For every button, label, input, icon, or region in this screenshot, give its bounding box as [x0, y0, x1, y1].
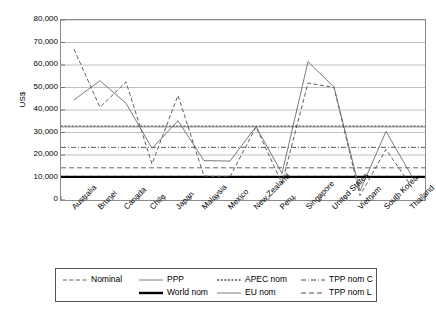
legend-item-label: Nominal — [91, 275, 122, 284]
legend-swatch-line-icon — [138, 288, 164, 298]
legend-item-label: PPP — [167, 275, 184, 284]
legend-item[interactable]: World nom — [138, 286, 208, 299]
y-axis-tick-label: 80,000 — [14, 15, 58, 23]
legend-row: World nomEU nomTPP nom L — [60, 285, 372, 298]
plot-area — [60, 19, 426, 201]
legend-item[interactable]: PPP — [138, 273, 184, 286]
legend-swatch-line-icon — [216, 288, 242, 298]
gridlines — [61, 20, 425, 200]
y-axis-tick-label: 20,000 — [14, 150, 58, 158]
y-axis-tick-label: 50,000 — [14, 83, 58, 91]
chart-legend: NominalPPPAPEC nomTPP nom C World nomEU … — [55, 268, 377, 302]
y-axis-tick-label: 70,000 — [14, 38, 58, 46]
legend-swatch-line-icon — [300, 275, 326, 285]
legend-item[interactable]: APEC nom — [216, 273, 287, 286]
y-axis-tick-label: 60,000 — [14, 60, 58, 68]
legend-row: NominalPPPAPEC nomTPP nom C — [60, 272, 372, 285]
legend-swatch-line-icon — [216, 275, 242, 285]
y-axis-tick-label: 30,000 — [14, 128, 58, 136]
legend-item-label: TPP nom C — [329, 275, 373, 284]
y-axis-tick-label: 10,000 — [14, 173, 58, 181]
legend-swatch-line-icon — [300, 288, 326, 298]
legend-swatch-line-icon — [62, 275, 88, 285]
legend-item[interactable]: Nominal — [62, 273, 122, 286]
legend-item-label: EU nom — [245, 288, 276, 297]
legend-item[interactable]: TPP nom L — [300, 286, 371, 299]
legend-swatch-line-icon — [138, 275, 164, 285]
legend-item[interactable]: TPP nom C — [300, 273, 373, 286]
legend-item-label: TPP nom L — [329, 288, 371, 297]
y-axis-tick-labels: 80,00070,00060,00050,00040,00030,00020,0… — [0, 0, 58, 313]
legend-item-label: World nom — [167, 288, 208, 297]
legend-item-label: APEC nom — [245, 275, 287, 284]
y-axis-tick-label: 40,000 — [14, 105, 58, 113]
legend-item[interactable]: EU nom — [216, 286, 276, 299]
y-axis-tick-label: 0 — [14, 195, 58, 203]
plot-svg — [61, 20, 425, 200]
